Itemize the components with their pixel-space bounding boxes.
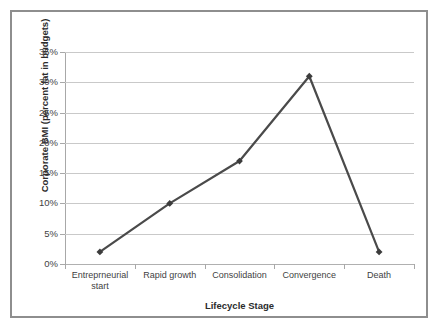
x-axis-tick-label: Rapid growth bbox=[135, 270, 205, 304]
data-series-line bbox=[65, 52, 414, 264]
x-axis-tick-label: Consolidation bbox=[205, 270, 275, 304]
y-axis-tick-label: 35% bbox=[18, 47, 58, 57]
y-axis-tick-labels: 0%5%10%15%20%25%30%35% bbox=[12, 12, 58, 312]
y-axis-tick-label: 0% bbox=[18, 259, 58, 269]
y-axis-tick-label: 20% bbox=[18, 138, 58, 148]
x-axis-tick-label: Convergence bbox=[274, 270, 344, 304]
x-axis-tick-labels: Entreprneurial startRapid growthConsolid… bbox=[65, 270, 414, 304]
y-axis-tick-label: 15% bbox=[18, 168, 58, 178]
x-axis-tick bbox=[135, 264, 136, 269]
x-axis-tick-label: Death bbox=[344, 270, 414, 304]
x-axis-title: Lifecycle Stage bbox=[65, 300, 414, 311]
x-axis-tick bbox=[344, 264, 345, 269]
plot-area bbox=[65, 52, 414, 264]
y-axis-tick-label: 25% bbox=[18, 108, 58, 118]
gridline bbox=[65, 264, 414, 265]
chart-frame: Corporate BMI (percent fat in budgets) 0… bbox=[10, 10, 428, 318]
y-axis-tick-label: 30% bbox=[18, 77, 58, 87]
y-axis-tick-label: 5% bbox=[18, 229, 58, 239]
x-axis-tick bbox=[65, 264, 66, 269]
x-axis-tick bbox=[205, 264, 206, 269]
x-axis-tick bbox=[274, 264, 275, 269]
x-axis-tick bbox=[414, 264, 415, 269]
data-point-marker bbox=[376, 248, 383, 255]
x-axis-tick-label: Entreprneurial start bbox=[65, 270, 135, 304]
y-axis-tick-label: 10% bbox=[18, 198, 58, 208]
